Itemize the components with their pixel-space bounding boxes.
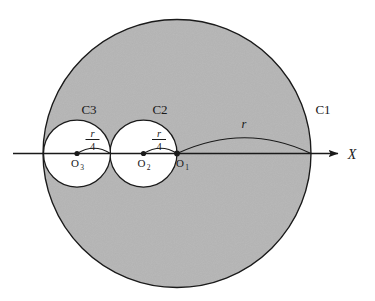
label-point-o2-base: O: [138, 157, 146, 169]
label-x-axis: X: [347, 147, 357, 162]
label-point-o1-sub: 1: [185, 163, 189, 172]
point-o3-dot: [74, 151, 79, 156]
point-o2-dot: [141, 151, 146, 156]
label-point-o3-sub: 3: [80, 163, 84, 172]
label-radius-r: r: [242, 117, 247, 131]
label-c2: C2: [152, 102, 167, 117]
label-point-o3-base: O: [71, 157, 79, 169]
label-c1: C1: [315, 102, 330, 117]
label-c2-fraction-denominator: 4: [156, 141, 162, 152]
label-point-o1-base: O: [176, 157, 184, 169]
label-c3: C3: [81, 102, 96, 117]
figure-canvas: C3 C2 C1 r r 4 r 4 O 3 O 2 O 1 X: [0, 0, 375, 301]
label-c3-fraction-denominator: 4: [90, 141, 96, 152]
label-point-o2-sub: 2: [147, 163, 151, 172]
geometry-figure: C3 C2 C1 r r 4 r 4 O 3 O 2 O 1 X: [0, 0, 375, 301]
point-o1-dot: [174, 151, 180, 157]
